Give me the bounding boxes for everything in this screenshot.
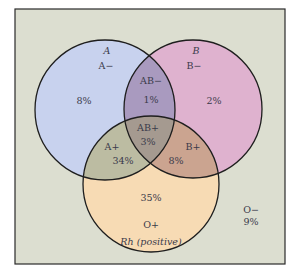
ab-pos-type: AB+ — [136, 122, 159, 133]
set-rh-label: Rh (positive) — [119, 236, 182, 247]
set-b-label: B — [192, 45, 200, 56]
o-pos-percent: 35% — [140, 192, 161, 203]
b-neg-percent: 2% — [206, 95, 221, 106]
a-pos-type: A+ — [104, 141, 120, 152]
a-neg-percent: 8% — [76, 95, 91, 106]
ab-neg-percent: 1% — [143, 94, 158, 105]
b-pos-percent: 8% — [168, 155, 183, 166]
ab-pos-percent: 3% — [140, 136, 155, 147]
venn-diagram: A B Rh (positive) A− 8% B− 2% AB− 1% AB+… — [0, 0, 296, 273]
a-pos-percent: 34% — [112, 155, 133, 166]
o-pos-type: O+ — [143, 219, 159, 230]
ab-neg-type: AB− — [139, 75, 162, 86]
b-pos-type: B+ — [186, 141, 201, 152]
o-neg-type: O− — [243, 204, 259, 215]
b-neg-type: B− — [187, 60, 202, 71]
set-a-label: A — [103, 45, 111, 56]
a-neg-type: A− — [98, 60, 114, 71]
o-neg-percent: 9% — [243, 216, 258, 227]
